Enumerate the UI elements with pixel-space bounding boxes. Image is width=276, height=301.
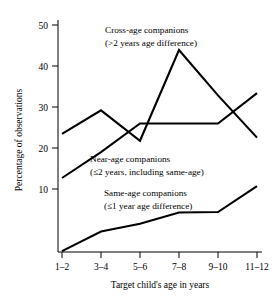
x-tick-label-3-4: 3–4 — [94, 262, 109, 272]
x-tick-label-5-6: 5–6 — [133, 262, 148, 272]
annotation-same-age-line2: (≤1 year age difference) — [104, 201, 192, 211]
x-axis-title: Target child's age in years — [111, 280, 210, 290]
line-chart-canvas: 50 40 30 20 10 1–2 3–4 5–6 7–8 9–10 11–1… — [0, 0, 276, 301]
x-tick-label-1-2: 1–2 — [55, 262, 70, 272]
chart-figure: 50 40 30 20 10 1–2 3–4 5–6 7–8 9–10 11–1… — [0, 0, 276, 301]
annotation-cross-age-line1: Cross-age companions — [105, 25, 189, 35]
annotation-cross-age-line2: (>2 years age difference) — [105, 38, 197, 48]
y-tick-label-40: 40 — [39, 62, 49, 72]
y-tick-label-20: 20 — [39, 144, 49, 154]
annotation-near-age-line1: Near-age companions — [90, 154, 171, 164]
annotation-same-age-line1: Same-age companions — [104, 188, 187, 198]
y-tick-label-50: 50 — [39, 21, 49, 31]
x-tick-label-11-12: 11–12 — [245, 262, 269, 272]
y-tick-label-10: 10 — [39, 185, 49, 195]
annotation-near-age-line2: (≤2 years, including same-age) — [90, 167, 204, 177]
y-tick-label-30: 30 — [39, 103, 49, 113]
y-axis-title: Percentage of observations — [14, 89, 24, 192]
x-tick-label-7-8: 7–8 — [172, 262, 187, 272]
x-tick-label-9-10: 9–10 — [209, 262, 228, 272]
